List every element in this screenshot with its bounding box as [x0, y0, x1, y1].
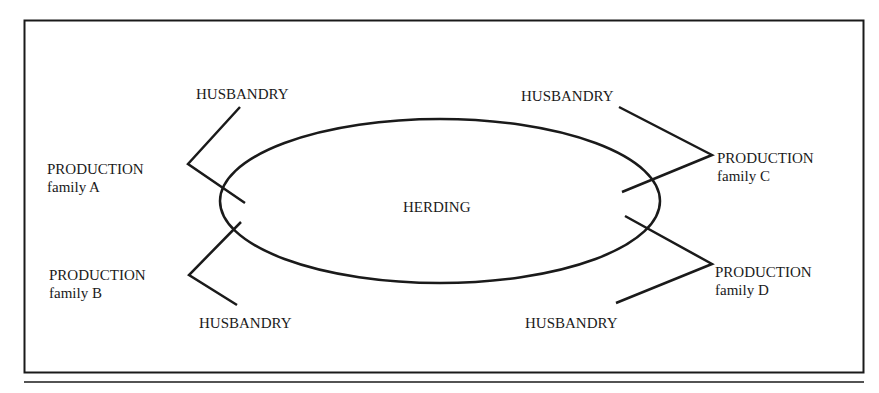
husbandry-label-b: HUSBANDRY: [199, 314, 292, 332]
diagram-frame: [25, 21, 864, 373]
family-name-b: family B: [49, 284, 146, 302]
production-title-b: PRODUCTION: [49, 267, 146, 283]
husbandry-label-a: HUSBANDRY: [196, 85, 289, 103]
husbandry-label-d: HUSBANDRY: [525, 314, 618, 332]
connector-family-d: [616, 216, 712, 303]
herding-diagram: [0, 0, 879, 393]
family-name-c: family C: [717, 167, 814, 185]
production-title-c: PRODUCTION: [717, 150, 814, 166]
production-title-a: PRODUCTION: [47, 161, 144, 177]
family-name-a: family A: [47, 178, 144, 196]
production-label-b: PRODUCTION family B: [49, 266, 146, 302]
production-label-c: PRODUCTION family C: [717, 149, 814, 185]
production-label-a: PRODUCTION family A: [47, 160, 144, 196]
herding-label: HERDING: [403, 198, 471, 216]
husbandry-label-c: HUSBANDRY: [521, 87, 614, 105]
production-label-d: PRODUCTION family D: [715, 263, 812, 299]
production-title-d: PRODUCTION: [715, 264, 812, 280]
family-name-d: family D: [715, 281, 812, 299]
connector-family-c: [619, 107, 712, 192]
connector-family-a: [188, 107, 245, 203]
connector-family-b: [189, 222, 241, 305]
